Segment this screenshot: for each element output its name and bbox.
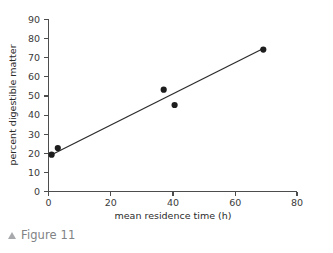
data-point	[260, 47, 266, 53]
x-axis-ticks: 0 20 40 60 80	[45, 192, 303, 209]
y-tick-label: 20	[28, 148, 40, 159]
trend-line	[52, 49, 264, 155]
y-tick-label: 60	[28, 71, 40, 82]
x-tick-label: 60	[229, 197, 241, 208]
y-tick-label: 50	[28, 90, 40, 101]
y-tick-label: 80	[28, 33, 40, 44]
x-tick-label: 20	[105, 197, 117, 208]
figure-caption-label: Figure 11	[21, 228, 75, 242]
y-tick-label: 70	[28, 52, 40, 63]
x-axis-title: mean residence time (h)	[115, 210, 232, 221]
y-tick-label: 0	[34, 186, 40, 197]
y-tick-label: 90	[28, 14, 40, 25]
data-point	[161, 87, 167, 93]
y-tick-label: 10	[28, 167, 40, 178]
triangle-up-icon	[8, 232, 16, 239]
y-axis-ticks: 0 10 20 30 40 50 60 70 80 90	[28, 14, 49, 197]
figure-container: 0 10 20 30 40 50 60 70 80 90 0 20 40 60 …	[0, 0, 333, 253]
y-axis-title: percent digestible matter	[7, 44, 18, 165]
data-point	[55, 145, 61, 151]
scatter-chart: 0 10 20 30 40 50 60 70 80 90 0 20 40 60 …	[0, 0, 333, 225]
y-tick-label: 40	[28, 109, 40, 120]
data-point	[172, 102, 178, 108]
trend-line-group	[52, 49, 264, 155]
y-tick-label: 30	[28, 129, 40, 140]
data-point	[49, 152, 55, 158]
x-tick-label: 40	[167, 197, 179, 208]
x-tick-label: 80	[291, 197, 303, 208]
x-tick-label: 0	[45, 197, 51, 208]
figure-caption: Figure 11	[8, 228, 75, 242]
